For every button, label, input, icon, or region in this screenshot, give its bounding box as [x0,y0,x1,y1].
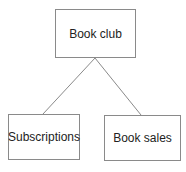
connector-root-to-book-sales [95,58,141,115]
connector-root-to-subscriptions [43,58,95,114]
node-label: Subscriptions [8,130,80,144]
node-book-sales: Book sales [104,115,181,161]
node-subscriptions: Subscriptions [8,114,80,160]
node-book-club: Book club [55,9,136,58]
node-label: Book sales [113,131,172,145]
node-label: Book club [69,27,122,41]
